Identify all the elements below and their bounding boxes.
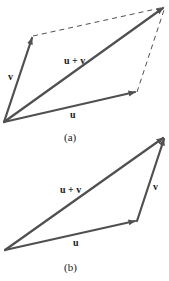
label-u-a: u [70,109,76,120]
figure-b: u + v v u (b) [5,138,164,274]
label-sum-b: u + v [60,184,81,195]
dashed-edge-right [137,7,165,92]
caption-b: (b) [64,261,77,274]
label-sum-a: u + v [64,55,85,66]
vector-addition-diagram: v u + v u (a) u + v v u (b) [0,0,169,281]
figure-a: v u + v u (a) [4,7,165,144]
label-u-b: u [73,237,79,248]
label-v-b: v [153,181,158,192]
label-v-a: v [8,71,13,82]
vector-v-b [137,139,164,221]
caption-a: (a) [64,131,77,144]
